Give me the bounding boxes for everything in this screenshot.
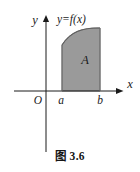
tick-label-a: a [58, 94, 64, 106]
x-axis-label: x [126, 77, 133, 91]
figure-container: y x y=f(x) A O a b 图 3.6 [0, 0, 140, 172]
y-axis-label: y [30, 13, 38, 27]
curve-equation-label: y=f(x) [56, 13, 86, 26]
figure-caption: 图 3.6 [0, 147, 140, 163]
region-label-A: A [80, 53, 89, 67]
origin-label: O [34, 94, 43, 106]
x-axis-arrow-icon [116, 88, 124, 94]
y-axis-arrow-icon [43, 15, 49, 22]
tick-label-b: b [97, 94, 103, 106]
